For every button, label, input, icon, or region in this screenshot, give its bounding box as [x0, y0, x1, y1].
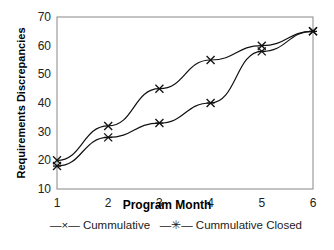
y-tick-label: 60 — [38, 39, 52, 53]
line-chart: 10203040506070123456Requirements Discrep… — [0, 0, 334, 250]
y-tick-label: 20 — [38, 153, 52, 167]
plot-area — [57, 17, 313, 189]
y-axis-label: Requirements Discrepancies — [15, 27, 27, 178]
legend-marker-x-icon: —×— — [50, 219, 80, 231]
y-tick-label: 40 — [38, 96, 52, 110]
series-line-1 — [57, 31, 313, 166]
legend-marker-asterisk-icon: —✳— — [160, 218, 193, 232]
legend: —×— Cummulative —✳— Cummulative Closed — [50, 218, 302, 232]
y-tick-label: 10 — [38, 182, 52, 196]
x-axis-label: Program Month — [0, 198, 334, 212]
legend-label-cummulative: Cummulative — [83, 219, 150, 231]
y-tick-label: 30 — [38, 125, 52, 139]
legend-label-cummulative-closed: Cummulative Closed — [196, 219, 302, 231]
y-tick-label: 70 — [38, 10, 52, 24]
y-tick-label: 50 — [38, 67, 52, 81]
